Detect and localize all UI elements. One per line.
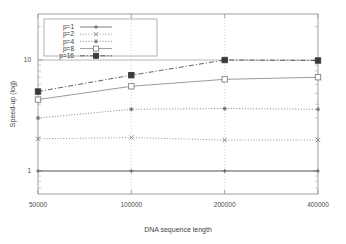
x-axis-title: DNA sequence length: [144, 226, 212, 234]
chart-canvas: 110 50000100000200000400000 DNA sequence…: [0, 0, 346, 244]
data-point-marker: [315, 58, 320, 63]
data-point-marker: [315, 75, 320, 80]
data-point-marker: [94, 39, 98, 43]
x-tick-label: 200000: [214, 201, 236, 208]
data-point-marker: [35, 97, 40, 102]
data-point-marker: [222, 106, 226, 110]
x-tick-label: 400000: [307, 201, 329, 208]
data-point-marker: [35, 89, 40, 94]
data-point-marker: [129, 107, 133, 111]
y-tick-label: 10: [24, 56, 32, 63]
x-tick-label: 100000: [120, 201, 142, 208]
data-point-marker: [94, 46, 99, 51]
data-point-marker: [222, 57, 227, 62]
data-point-marker: [316, 107, 320, 111]
data-point-marker: [36, 116, 40, 120]
data-point-marker: [129, 84, 134, 89]
speedup-chart: 110 50000100000200000400000 DNA sequence…: [0, 0, 346, 244]
data-point-marker: [129, 73, 134, 78]
data-point-marker: [222, 77, 227, 82]
data-point-marker: [94, 53, 99, 58]
x-tick-label: 50000: [29, 201, 47, 208]
y-tick-label: 1: [27, 167, 31, 174]
chart-background: [0, 0, 346, 244]
legend-label: p=16: [59, 52, 74, 60]
y-axis-title: Speed-up (log): [9, 81, 17, 127]
